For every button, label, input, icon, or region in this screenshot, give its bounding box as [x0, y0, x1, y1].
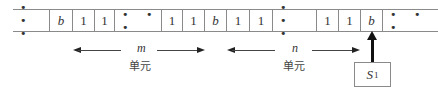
- one-symbol: 1: [80, 13, 87, 29]
- blank-symbol: b: [212, 13, 219, 29]
- span-unit-label: 单元: [283, 57, 305, 73]
- blank-symbol: b: [368, 13, 375, 29]
- span-variable-m: m: [137, 41, 146, 56]
- one-symbol: 1: [190, 13, 197, 29]
- ellipsis-glyph: • • •: [280, 1, 316, 40]
- one-symbol: 1: [235, 13, 242, 29]
- state-box: S1: [354, 62, 391, 87]
- tape-cell-blank: b: [205, 10, 227, 31]
- state-label: S: [367, 67, 374, 83]
- state-subscript: 1: [374, 70, 379, 80]
- blank-symbol: b: [58, 13, 65, 29]
- tape-cell-one: 1: [339, 10, 361, 31]
- tape-cell-one: 1: [317, 10, 339, 31]
- ellipsis-glyph: • • •: [20, 1, 49, 40]
- one-symbol: 1: [258, 13, 265, 29]
- span-line: [78, 50, 121, 51]
- arrow-right-icon: [197, 47, 205, 53]
- tape-cell-ellipsis: • • •: [115, 10, 162, 31]
- one-symbol: 1: [101, 13, 108, 29]
- tape-cell-one: 1: [183, 10, 205, 31]
- tape-cell-blank: b: [50, 10, 73, 31]
- span-line: [157, 50, 200, 51]
- one-symbol: 1: [324, 13, 331, 29]
- span-line: [232, 50, 275, 51]
- head-shaft: [371, 38, 374, 63]
- tape-cell-ellipsis: • • •: [273, 10, 317, 31]
- tape-cell-one: 1: [162, 10, 183, 31]
- tape-cell-one: 1: [227, 10, 250, 31]
- ellipsis-glyph: • • •: [390, 8, 438, 34]
- span-unit-label: 单元: [129, 57, 151, 73]
- ellipsis-glyph: • • •: [122, 8, 161, 34]
- span-variable-n: n: [292, 41, 298, 56]
- tape-cell-ellipsis: • • •: [13, 10, 50, 31]
- span-line: [312, 50, 355, 51]
- tape-cell-one: 1: [250, 10, 273, 31]
- tape-cell-ellipsis: • • •: [383, 10, 438, 31]
- turing-tape: • • • b 1 1 • • • 1 1 b 1 1 • • • 1 1 b …: [13, 9, 438, 32]
- one-symbol: 1: [346, 13, 353, 29]
- tape-cell-head-blank: b: [361, 10, 383, 31]
- arrow-right-icon: [352, 47, 360, 53]
- tape-cell-one: 1: [73, 10, 95, 31]
- one-symbol: 1: [169, 13, 176, 29]
- tape-cell-one: 1: [95, 10, 115, 31]
